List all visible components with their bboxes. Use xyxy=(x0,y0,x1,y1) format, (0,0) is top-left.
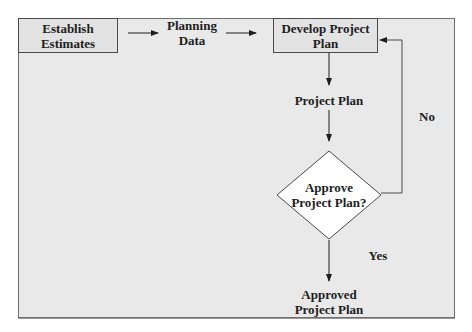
planning-line1: Planning xyxy=(160,18,224,33)
approved-line2: Project Plan xyxy=(284,302,374,317)
develop-project-plan-box: Develop Project Plan xyxy=(273,18,378,53)
approve-line2: Project Plan? xyxy=(284,195,374,210)
no-label: No xyxy=(412,109,442,124)
planning-line2: Data xyxy=(160,33,224,48)
develop-line1: Develop Project xyxy=(281,21,369,36)
planning-data-label: Planning Data xyxy=(160,18,224,48)
approve-line1: Approve xyxy=(284,180,374,195)
yes-label: Yes xyxy=(360,248,396,263)
develop-line2: Plan xyxy=(281,36,369,51)
approved-line1: Approved xyxy=(284,287,374,302)
arrow-no-feedback xyxy=(380,40,402,193)
approved-project-plan-label: Approved Project Plan xyxy=(284,287,374,317)
establish-estimates-box: Establish Estimates xyxy=(18,18,118,53)
decision-label: Approve Project Plan? xyxy=(284,180,374,210)
establish-line1: Establish xyxy=(41,21,95,36)
establish-line2: Estimates xyxy=(41,36,95,51)
project-plan-label: Project Plan xyxy=(284,93,374,108)
